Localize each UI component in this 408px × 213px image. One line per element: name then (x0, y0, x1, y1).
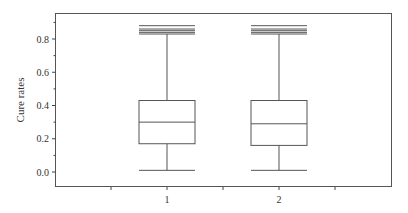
y-tick-label: 0.6 (37, 67, 50, 78)
x-tick-label: 1 (165, 194, 170, 205)
y-tick-label: 0.2 (37, 133, 50, 144)
x-axis: 12 (111, 187, 335, 206)
boxes (139, 26, 307, 171)
boxplot-chart: 0.00.20.40.60.8 12 Cure rates (0, 0, 408, 213)
y-axis: 0.00.20.40.60.8 (37, 22, 56, 177)
plot-frame (56, 14, 392, 187)
box-group-2 (251, 26, 307, 171)
y-tick-label: 0.4 (37, 100, 50, 111)
iqr-box (251, 101, 307, 146)
y-tick-label: 0.0 (37, 167, 50, 178)
y-tick-label: 0.8 (37, 34, 50, 45)
box-group-1 (139, 26, 195, 171)
y-axis-label: Cure rates (14, 78, 26, 123)
x-tick-label: 2 (277, 194, 282, 205)
